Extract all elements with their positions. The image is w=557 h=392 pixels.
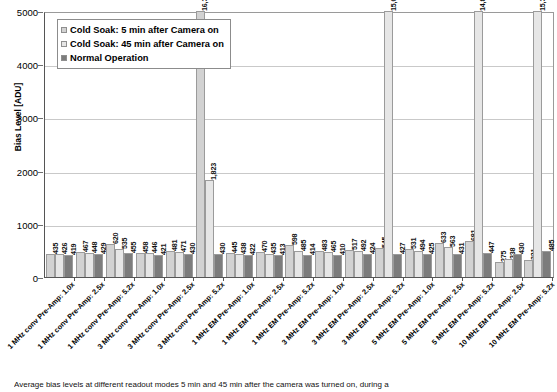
bar: 14,877 bbox=[474, 11, 483, 277]
bar-value-label: 517 bbox=[341, 244, 350, 255]
bar: 427 bbox=[393, 254, 402, 277]
bar-group: 598485414 bbox=[284, 13, 314, 277]
bar: 545 bbox=[375, 248, 384, 277]
y-tick-label: 2000 bbox=[17, 166, 38, 177]
bar-group: 470435413 bbox=[254, 13, 284, 277]
y-tick-label: 5000 bbox=[17, 7, 38, 18]
bar: 421 bbox=[154, 255, 163, 277]
bar: 424 bbox=[363, 254, 372, 277]
bar-value-label: 425 bbox=[418, 249, 427, 260]
y-tick-mark bbox=[38, 12, 43, 13]
bar-value-label: 447 bbox=[478, 248, 487, 259]
bar-value-label: 492 bbox=[350, 245, 359, 256]
bar-value-label: 455 bbox=[120, 247, 129, 258]
bar-value-label: 15,313 bbox=[529, 1, 538, 22]
bar-value-label: 430 bbox=[508, 248, 517, 259]
bar: 414 bbox=[303, 255, 312, 277]
bar: 681 bbox=[465, 241, 474, 277]
chart-page: Bias Level [ADU] 010002000300040005000 4… bbox=[0, 0, 557, 392]
bar-value-label: 410 bbox=[329, 250, 338, 261]
x-axis-labels: 1 MHz conv Pre-Amp: 1.0x1 MHz conv Pre-A… bbox=[44, 280, 554, 380]
legend-label: Cold Soak: 5 min after Camera on bbox=[70, 25, 219, 35]
bar-value-label: 321 bbox=[520, 254, 529, 265]
legend: Cold Soak: 5 min after Camera on Cold So… bbox=[57, 19, 231, 69]
bar-value-label: 15,000 bbox=[380, 1, 389, 22]
bar-group: 275338430 bbox=[493, 13, 523, 277]
bar: 429 bbox=[94, 254, 103, 277]
bar-value-label: 430 bbox=[179, 248, 188, 259]
bar: 1,823 bbox=[205, 180, 214, 277]
bar: 15,000 bbox=[384, 11, 393, 277]
bar-value-label: 414 bbox=[299, 249, 308, 260]
figure-caption: Average bias levels at different readout… bbox=[14, 380, 554, 389]
plot-area: 4354264194674484296205354554584464214814… bbox=[44, 12, 554, 278]
bar-value-label: 545 bbox=[371, 242, 380, 253]
legend-label: Cold Soak: 45 min after Camera on bbox=[70, 39, 224, 49]
legend-swatch-cold-soak-5min bbox=[61, 27, 67, 33]
bar-value-label: 430 bbox=[209, 248, 218, 259]
bar-value-label: 14,877 bbox=[469, 1, 478, 22]
bar-value-label: 470 bbox=[251, 246, 260, 257]
bar-value-label: 438 bbox=[230, 248, 239, 259]
bar-value-label: 338 bbox=[499, 253, 508, 264]
legend-item: Cold Soak: 45 min after Camera on bbox=[61, 37, 224, 51]
y-tick-label: 1000 bbox=[17, 219, 38, 230]
bar: 431 bbox=[453, 254, 462, 277]
bar-value-label: 413 bbox=[269, 249, 278, 260]
bar: 430 bbox=[184, 254, 193, 277]
bar: 15,313 bbox=[533, 11, 542, 277]
bar-value-label: 458 bbox=[132, 247, 141, 258]
y-tick-mark bbox=[38, 225, 43, 226]
legend-item: Cold Soak: 5 min after Camera on bbox=[61, 23, 224, 37]
bar-value-label: 485 bbox=[290, 246, 299, 257]
bar-value-label: 535 bbox=[111, 243, 120, 254]
y-tick-mark bbox=[38, 65, 43, 66]
bar-group: 68114,877447 bbox=[463, 13, 493, 277]
bar-value-label: 419 bbox=[60, 249, 69, 260]
bar-value-label: 426 bbox=[51, 249, 60, 260]
legend-swatch-normal-operation bbox=[61, 55, 67, 61]
bar-group: 517492424 bbox=[344, 13, 374, 277]
bar: 321 bbox=[524, 260, 533, 277]
bar-value-label: 483 bbox=[311, 246, 320, 257]
bar: 425 bbox=[423, 254, 432, 277]
bar-value-label: 563 bbox=[439, 241, 448, 252]
bar: 413 bbox=[274, 255, 283, 277]
y-tick-mark bbox=[38, 118, 43, 119]
bar-value-label: 429 bbox=[90, 248, 99, 259]
bar-value-label: 435 bbox=[42, 248, 51, 259]
bar-value-label: 681 bbox=[460, 235, 469, 246]
bar-value-label: 431 bbox=[448, 248, 457, 259]
bar-group: 483465410 bbox=[314, 13, 344, 277]
y-tick-mark bbox=[38, 172, 43, 173]
bar-value-label: 422 bbox=[239, 249, 248, 260]
y-tick-label: 3000 bbox=[17, 113, 38, 124]
legend-swatch-cold-soak-45min bbox=[61, 41, 67, 47]
bar-value-label: 467 bbox=[72, 246, 81, 257]
bar-value-label: 275 bbox=[490, 257, 499, 268]
legend-label: Normal Operation bbox=[70, 53, 149, 63]
bar-group: 54515,000427 bbox=[374, 13, 404, 277]
bar: 419 bbox=[64, 255, 73, 277]
y-tick-mark bbox=[38, 278, 43, 279]
bar-value-label: 620 bbox=[102, 238, 111, 249]
bar: 422 bbox=[244, 255, 253, 277]
bar-value-label: 427 bbox=[389, 249, 398, 260]
bar-group: 531494425 bbox=[404, 13, 434, 277]
bar-value-label: 633 bbox=[430, 238, 439, 249]
legend-item: Normal Operation bbox=[61, 51, 224, 65]
bar: 410 bbox=[333, 255, 342, 277]
bar-value-label: 424 bbox=[359, 249, 368, 260]
y-tick-label: 4000 bbox=[17, 60, 38, 71]
bar-value-label: 485 bbox=[538, 246, 547, 257]
bar-group: 633563431 bbox=[433, 13, 463, 277]
bar-value-label: 445 bbox=[221, 248, 230, 259]
y-axis-ticks: 010002000300040005000 bbox=[0, 12, 44, 278]
bar-value-label: 435 bbox=[260, 248, 269, 259]
bar-value-label: 446 bbox=[141, 248, 150, 259]
bar-value-label: 465 bbox=[320, 247, 329, 258]
bar-value-label: 421 bbox=[150, 249, 159, 260]
bar: 485 bbox=[542, 251, 551, 277]
bar-value-label: 598 bbox=[281, 239, 290, 250]
bar-group: 32115,313485 bbox=[523, 13, 553, 277]
